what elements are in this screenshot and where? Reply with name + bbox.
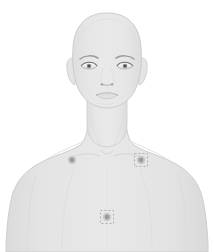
- eye-right-pupil: [88, 65, 90, 67]
- body-map-viewport[interactable]: [0, 0, 214, 252]
- marker-hit-right-clavicle[interactable]: [64, 152, 80, 168]
- marker-hit-sternum[interactable]: [99, 209, 115, 225]
- head-group: [73, 13, 142, 108]
- eye-left-pupil: [124, 65, 126, 67]
- nostril-left: [111, 84, 114, 86]
- nostril-right: [101, 84, 104, 86]
- marker-hit-left-clavicle[interactable]: [133, 152, 149, 168]
- eye-right: [81, 62, 97, 69]
- eye-left: [117, 62, 133, 69]
